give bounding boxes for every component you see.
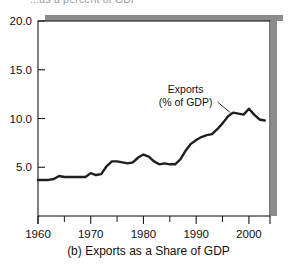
frame-shadow-right: [271, 15, 277, 216]
figure-caption: (b) Exports as a Share of GDP: [0, 244, 297, 258]
annotation-label-line2: (% of GDP): [159, 96, 213, 108]
x-tick-label-1960: 1960: [25, 228, 51, 240]
annotation-label-line1: Exports: [168, 83, 204, 95]
x-tick-label-2000: 2000: [236, 228, 262, 240]
y-tick-label-15.0: 15.0: [10, 64, 32, 76]
x-tick-label-1970: 1970: [78, 228, 104, 240]
y-tick-label-5.0: 5.0: [16, 161, 32, 173]
chart-canvas: 5.010.015.020.019601970198019902000Expor…: [0, 0, 297, 240]
figure-exports-share-of-gdp: ...as a percent of GDP 5.010.015.020.019…: [0, 0, 297, 268]
plot-frame: [38, 21, 270, 216]
y-tick-label-20.0: 20.0: [10, 15, 32, 27]
frame-shadow-top: [45, 15, 283, 21]
x-tick-label-1980: 1980: [131, 228, 157, 240]
y-tick-label-10.0: 10.0: [10, 113, 32, 125]
x-tick-label-1990: 1990: [183, 228, 209, 240]
